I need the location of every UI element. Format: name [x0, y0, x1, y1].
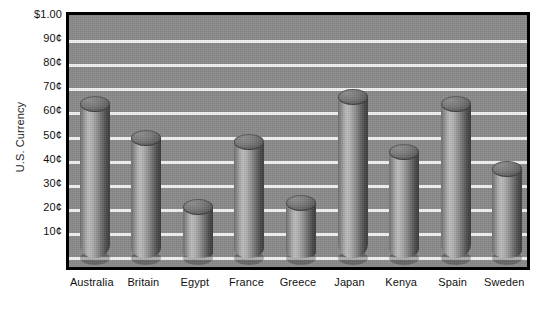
y-axis-tick-label: 10¢	[0, 225, 62, 237]
gridline	[69, 88, 527, 91]
y-axis-tick-label: 20¢	[0, 201, 62, 213]
y-axis-tick-label: 70¢	[0, 80, 62, 92]
x-axis-tick-label: Britain	[127, 276, 159, 288]
x-axis-tick-label: Japan	[334, 276, 364, 288]
bar	[492, 169, 522, 258]
gridline	[69, 64, 527, 67]
y-axis-tick-label: 40¢	[0, 153, 62, 165]
y-axis-tick-label: 50¢	[0, 129, 62, 141]
x-axis-tick-label: Spain	[438, 276, 467, 288]
bar-top-outline	[441, 96, 471, 112]
y-axis-tick-label: 60¢	[0, 104, 62, 116]
y-axis-tick-label: 90¢	[0, 32, 62, 44]
gridline	[69, 40, 527, 43]
bar-top-outline	[80, 96, 110, 112]
bar-top-outline	[286, 195, 316, 211]
bar	[389, 152, 419, 258]
x-axis-tick-label: France	[229, 276, 264, 288]
bar-body	[286, 203, 316, 258]
bar-body	[389, 152, 419, 258]
bar-body	[131, 138, 161, 259]
bar	[286, 203, 316, 258]
bar-top-outline	[131, 130, 161, 146]
y-axis-tick-label: 30¢	[0, 177, 62, 189]
bar	[234, 142, 264, 258]
bar-chart: U.S. Currency $1.0090¢80¢70¢60¢50¢40¢30¢…	[0, 0, 543, 310]
x-axis-tick-label: Sweden	[484, 276, 524, 288]
bar	[338, 97, 368, 258]
y-axis-tick-label: $1.00	[0, 8, 62, 20]
bar	[183, 207, 213, 258]
bar-top-outline	[492, 161, 522, 177]
x-axis-tick-labels: AustraliaBritainEgyptFranceGreeceJapanKe…	[0, 276, 543, 296]
bar-body	[492, 169, 522, 258]
bar-body	[80, 104, 110, 258]
x-axis-tick-label: Australia	[70, 276, 114, 288]
x-axis-tick-label: Kenya	[385, 276, 417, 288]
bar-body	[338, 97, 368, 258]
x-axis-tick-label: Greece	[280, 276, 317, 288]
y-axis-tick-label: 80¢	[0, 56, 62, 68]
bar	[441, 104, 471, 258]
bar-body	[234, 142, 264, 258]
bar-top-outline	[338, 89, 368, 105]
bar	[80, 104, 110, 258]
y-axis-tick-labels: $1.0090¢80¢70¢60¢50¢40¢30¢20¢10¢	[0, 0, 62, 310]
bar-body	[441, 104, 471, 258]
bar	[131, 138, 161, 259]
bar-top-outline	[389, 144, 419, 160]
plot-area	[66, 12, 530, 270]
x-axis-tick-label: Egypt	[181, 276, 210, 288]
